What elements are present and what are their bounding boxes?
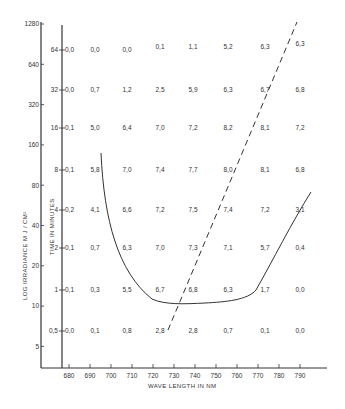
x-tick-label: 790 [295,372,306,379]
edge-value: 0,0 [65,86,74,93]
cell-value: 0,4 [295,244,304,251]
x-tick-label: 700 [106,372,117,379]
x-tick-label: 770 [253,372,264,379]
x-tick-label: 680 [64,372,75,379]
cell-value: 5,0 [90,124,99,131]
edge-value: 0,2 [65,206,74,213]
cell-value: 0,1 [90,327,99,334]
cell-value: 0,8 [122,327,131,334]
cell-value: 8,0 [223,166,232,173]
edge-value: 0,1 [65,166,74,173]
cell-value: 2,8 [188,327,197,334]
y-outer-label: LOG IRRADIANCE M J / CM² [22,211,28,300]
cell-value: 7,3 [188,244,197,251]
x-axis-ticks: 680690700710720730740750760770780790 [64,364,306,379]
y-tick-label: 5 [35,343,39,350]
x-axis-label: WAVE LENGTH IN NM [148,383,216,389]
x-tick-label: 710 [127,372,138,379]
time-tick-label: 32 [51,86,59,93]
cell-value: 7,2 [155,206,164,213]
cell-value: 5,9 [188,86,197,93]
y-tick-label: 20 [32,262,40,269]
cell-value: 6,8 [295,166,304,173]
cell-value: 8,2 [223,124,232,131]
cell-value: 2,8 [155,327,164,334]
cell-value: 7,2 [188,124,197,131]
cell-value: 0,0 [90,46,99,53]
edge-value: 0,1 [65,286,74,293]
cell-value: 0,1 [260,327,269,334]
y-tick-label: 640 [28,61,39,68]
cell-value: 7,5 [188,206,197,213]
x-tick-label: 780 [274,372,285,379]
cell-value: 6,8 [295,86,304,93]
cell-value: 0,7 [90,86,99,93]
threshold-curve [101,153,311,304]
cell-value: 7,0 [155,244,164,251]
edge-value: 0,0 [65,46,74,53]
edge-value: 0,0 [65,327,74,334]
time-tick-label: 64 [51,46,59,53]
time-tick-label: 1 [54,286,58,293]
y-tick-label: 40 [32,222,40,229]
y-inner-label: TIME IN MINUTES [49,198,55,255]
y-tick-label: 160 [28,141,39,148]
y-tick-label: 320 [28,101,39,108]
x-tick-label: 760 [232,372,243,379]
cell-value: 6,4 [122,124,131,131]
time-tick-label: 0,5 [49,327,58,334]
cell-value: 1,2 [122,86,131,93]
cell-value: 1,1 [188,43,197,50]
x-tick-label: 740 [190,372,201,379]
cell-value: 6,3 [295,40,304,47]
cell-value: 5,5 [122,286,131,293]
x-tick-label: 750 [211,372,222,379]
cell-value: 6,8 [188,286,197,293]
chart: 680690700710720730740750760770780790 128… [0,0,345,409]
cell-value: 6,3 [122,244,131,251]
cell-value: 8,1 [260,124,269,131]
x-tick-label: 690 [85,372,96,379]
cell-value: 0,0 [295,286,304,293]
cell-value: 5,8 [90,166,99,173]
cell-value: 0,1 [155,43,164,50]
cell-value: 7,0 [155,124,164,131]
cell-value: 5,2 [223,43,232,50]
cell-value: 5,7 [260,244,269,251]
cell-value: 6,7 [155,286,164,293]
cell-value: 6,6 [122,206,131,213]
cell-value: 7,2 [260,206,269,213]
edge-value: 0,1 [65,244,74,251]
x-tick-label: 720 [148,372,159,379]
cell-value: 6,3 [223,86,232,93]
cell-value: 0,3 [90,286,99,293]
edge-value: 0,1 [65,124,74,131]
cell-value: 6,3 [260,43,269,50]
cell-value: 7,4 [223,206,232,213]
time-tick-label: 16 [51,124,59,131]
data-values: 0,00,00,11,15,26,36,30,71,22,55,96,36,76… [90,40,304,334]
x-tick-label: 730 [169,372,180,379]
y-tick-label: 1280 [25,20,40,27]
cell-value: 2,5 [155,86,164,93]
y-tick-label: 80 [32,182,40,189]
cell-value: 1,7 [260,286,269,293]
cell-value: 4,1 [90,206,99,213]
cell-value: 7,2 [295,124,304,131]
cell-value: 6,3 [223,286,232,293]
cell-value: 0,0 [295,327,304,334]
cell-value: 7,0 [122,166,131,173]
cell-value: 7,1 [223,244,232,251]
cell-value: 7,7 [188,166,197,173]
y-tick-label: 10 [32,302,40,309]
cell-value: 0,7 [90,244,99,251]
dashed-trend-line [168,22,297,330]
cell-value: 8,1 [260,166,269,173]
cell-value: 0,0 [122,46,131,53]
cell-value: 7,4 [155,166,164,173]
cell-value: 0,7 [223,327,232,334]
time-tick-label: 8 [54,166,58,173]
